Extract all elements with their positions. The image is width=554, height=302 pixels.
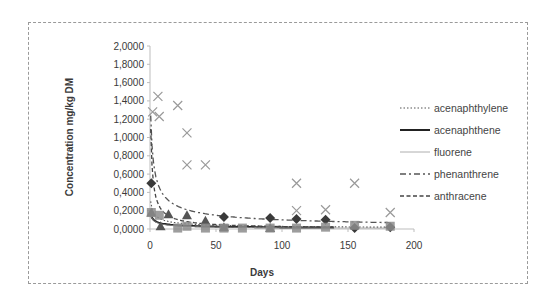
x-axis-title: Days (250, 267, 274, 278)
diamond-marker (146, 178, 156, 188)
legend: acenaphthyleneacenaphthenefluorenephenan… (400, 102, 508, 202)
square-marker (173, 224, 182, 233)
square-marker (238, 224, 247, 233)
y-tick-label: 1,6000 (113, 77, 144, 88)
x-tick-label: 0 (147, 240, 153, 251)
square-marker (155, 211, 164, 220)
x-marker (153, 92, 162, 101)
x-tick-label: 150 (340, 240, 357, 251)
square-marker (266, 224, 275, 233)
x-marker (182, 128, 191, 137)
square-marker (147, 208, 156, 217)
x-marker (148, 107, 157, 116)
y-axis-title: Concentration mg/kg DM (64, 78, 75, 196)
square-marker (201, 224, 210, 233)
data-markers (146, 92, 395, 233)
x-marker (386, 208, 395, 217)
legend-label-acenaphthene: acenaphthene (434, 124, 501, 136)
trendline-anthracene (151, 129, 334, 227)
square-marker (292, 224, 301, 233)
legend-label-phenanthrene: phenanthrene (434, 168, 499, 180)
scatter-chart: 0,00000,20000,40000,60000,80001,00001,20… (0, 0, 554, 302)
x-marker (292, 206, 301, 215)
square-marker (219, 224, 228, 233)
diamond-marker (265, 213, 275, 223)
square-marker (182, 222, 191, 231)
x-marker (173, 101, 182, 110)
square-marker (350, 221, 359, 230)
y-tick-label: 0,2000 (113, 205, 144, 216)
x-marker (201, 160, 210, 169)
y-tick-label: 1,2000 (113, 114, 144, 125)
legend-label-fluorene: fluorene (434, 146, 472, 158)
diamond-marker (219, 212, 229, 222)
x-marker (350, 179, 359, 188)
triangle-marker (200, 216, 210, 225)
square-marker (386, 222, 395, 231)
y-tick-label: 1,8000 (113, 59, 144, 70)
y-tick-label: 0,4000 (113, 187, 144, 198)
diamond-marker (292, 214, 302, 224)
x-tick-label: 100 (274, 240, 291, 251)
trendline-phenanthrene (151, 116, 390, 223)
x-marker (155, 112, 164, 121)
y-tick-label: 0,8000 (113, 150, 144, 161)
triangle-marker (182, 210, 192, 219)
y-tick-label: 1,0000 (113, 132, 144, 143)
y-tick-label: 1,4000 (113, 95, 144, 106)
y-tick-label: 0,0000 (113, 224, 144, 235)
square-marker (321, 223, 330, 232)
x-marker (292, 179, 301, 188)
x-tick-label: 200 (406, 240, 423, 251)
y-tick-label: 0,6000 (113, 169, 144, 180)
y-tick-label: 2,0000 (113, 41, 144, 52)
legend-label-anthracene: anthracene (434, 190, 487, 202)
legend-label-acenaphthylene: acenaphthylene (434, 102, 508, 114)
x-marker (182, 160, 191, 169)
x-marker (321, 205, 330, 214)
x-tick-label: 50 (210, 240, 222, 251)
